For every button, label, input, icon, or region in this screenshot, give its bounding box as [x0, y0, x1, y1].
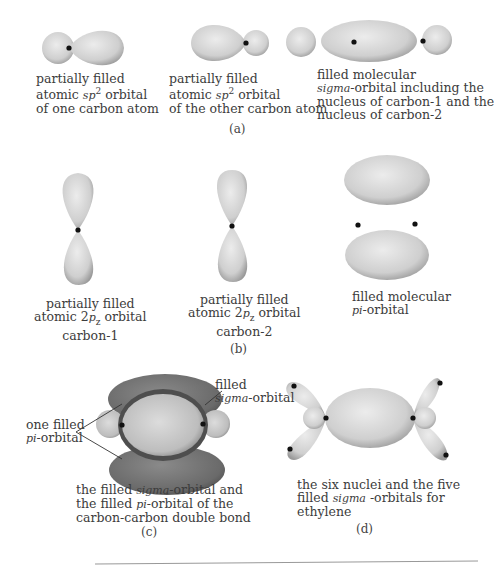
nucleus-icon [355, 222, 360, 227]
sp2-orbital-carbon-2 [191, 25, 269, 61]
caption-b1: partially filled atomic 2pz orbital carb… [34, 297, 147, 342]
nucleus-icon [420, 38, 425, 43]
sigma-molecular-orbital [286, 20, 452, 62]
2pz-orbital-carbon-2 [217, 170, 247, 282]
nucleus-icon [75, 227, 80, 232]
nucleus-icon [443, 452, 448, 457]
caption-d: the six nuclei and the five filled sigma… [297, 478, 460, 518]
caption-a2: partially filled atomic sp2 orbital of t… [169, 72, 327, 115]
sp2-orbital-carbon-1 [42, 31, 124, 66]
label-filled-sigma: filled sigma-orbital [215, 378, 294, 405]
nucleus-icon [287, 446, 292, 451]
nucleus-icon [437, 380, 442, 385]
nucleus-icon [412, 221, 417, 226]
nucleus-icon [119, 422, 124, 427]
ethylene-sigma-orbitals [286, 378, 448, 460]
nucleus-icon [200, 421, 205, 426]
nucleus-icon [243, 40, 248, 45]
double-bond-orbitals [76, 374, 230, 495]
caption-b3: filled molecular pi-orbital [352, 290, 451, 317]
bottom-rule [95, 561, 478, 564]
caption-b2: partially filled atomic 2pz orbital carb… [188, 293, 301, 338]
panel-label-d: (d) [356, 522, 373, 536]
nucleus-icon [410, 415, 415, 420]
caption-a1: partially filled atomic sp2 orbital of o… [36, 72, 159, 115]
panel-label-a: (a) [229, 122, 246, 136]
nucleus-icon [323, 415, 328, 420]
nucleus-icon [66, 45, 71, 50]
nucleus-icon [351, 39, 356, 44]
label-one-filled-pi: one filled pi-orbital [26, 418, 85, 445]
caption-c: the filled sigma-orbital and the filled … [76, 483, 251, 524]
panel-label-b: (b) [230, 342, 247, 356]
caption-a3: filled molecular sigma-orbital including… [317, 68, 494, 121]
pi-molecular-orbital [344, 155, 430, 280]
panel-label-c: (c) [141, 525, 157, 539]
nucleus-icon [229, 223, 234, 228]
2pz-orbital-carbon-1 [63, 173, 94, 285]
